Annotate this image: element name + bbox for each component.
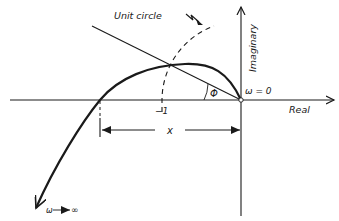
real-axis-label: Real — [289, 104, 310, 115]
origin-point — [239, 98, 243, 102]
tangent-line — [92, 26, 241, 100]
unit-circle-arc — [162, 26, 214, 112]
nyquist-diagram: Unit circle Imaginary Real ω = 0 −1 x Φ … — [0, 0, 339, 221]
omega-zero-label: ω = 0 — [245, 86, 272, 96]
imaginary-axis-label: Imaginary — [247, 24, 258, 72]
x-distance-label: x — [166, 125, 173, 136]
omega-label: ω — [46, 206, 53, 215]
nyquist-curve — [36, 64, 241, 208]
unit-circle-label: Unit circle — [114, 10, 162, 21]
phi-label: Φ — [210, 88, 218, 99]
phi-angle-arc — [204, 84, 208, 100]
infinity-label: ∞ — [71, 205, 79, 215]
minus-one-label: −1 — [155, 106, 168, 116]
pointer-bolt-icon — [186, 14, 203, 25]
